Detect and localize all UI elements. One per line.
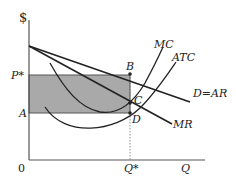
profit-area [29, 75, 130, 113]
point-c-marker [128, 101, 132, 105]
x-axis-label: Q [181, 162, 190, 175]
demand-label: D=AR [192, 87, 227, 100]
atc-label: ATC [171, 51, 196, 64]
monopoly-diagram: $ 0 Q Q* P* A B C D MC ATC D=AR MR [0, 0, 236, 183]
point-b-label: B [125, 60, 134, 73]
point-d-label: D [131, 113, 141, 126]
q-star-label: Q* [124, 162, 139, 175]
a-label: A [18, 107, 27, 120]
origin-label: 0 [18, 162, 25, 175]
point-c-label: C [134, 94, 143, 107]
mc-label: MC [153, 38, 174, 51]
mr-label: MR [172, 118, 193, 131]
p-star-label: P* [10, 69, 24, 82]
y-axis-label: $ [19, 10, 27, 25]
